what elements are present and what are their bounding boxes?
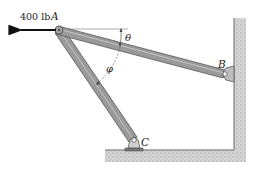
point-b-label: B (217, 58, 226, 70)
phi-label: φ (106, 63, 113, 74)
point-a-label: A (50, 10, 59, 22)
point-c-label: C (141, 136, 149, 148)
wall (234, 18, 246, 158)
frame-diagram: 400 lb A B C θ φ (0, 0, 258, 172)
load-label: 400 lb (20, 11, 50, 22)
pin-a (55, 26, 63, 34)
floor (105, 150, 246, 162)
theta-label: θ (125, 32, 131, 43)
